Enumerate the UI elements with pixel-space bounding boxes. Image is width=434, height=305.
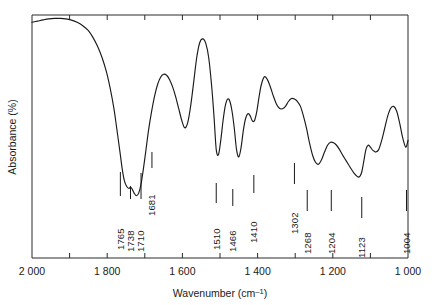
x-tick-label-1200: 1 200	[320, 265, 346, 277]
peak-label-1738: 1738	[125, 230, 136, 252]
x-tick-label-1800: 1 800	[94, 265, 120, 277]
spectrum-plot: 1765173817101681151014661410130212681204…	[0, 0, 434, 305]
peak-label-1268: 1268	[302, 232, 313, 254]
peak-label-1681: 1681	[146, 194, 157, 216]
x-axis-title: Wavenumber (cm–1)	[173, 287, 267, 300]
peak-label-1004: 1004	[401, 232, 412, 254]
peak-label-1123: 1123	[356, 237, 367, 258]
x-tick-label-1000: 1 000	[395, 265, 421, 277]
x-tick-label-2000: 2 000	[19, 265, 45, 277]
peak-label-1510: 1510	[211, 228, 222, 250]
peak-label-1302: 1302	[289, 212, 300, 234]
ir-spectrum-figure: 1765173817101681151014661410130212681204…	[0, 0, 434, 305]
x-tick-label-1400: 1 400	[244, 265, 270, 277]
x-tick-label-1600: 1 600	[169, 265, 195, 277]
peak-label-1204: 1204	[326, 232, 337, 254]
y-axis-title: Absorbance (%)	[6, 99, 18, 174]
peak-label-1410: 1410	[248, 221, 259, 243]
peak-label-1710: 1710	[135, 230, 146, 252]
peak-label-1466: 1466	[227, 230, 238, 252]
